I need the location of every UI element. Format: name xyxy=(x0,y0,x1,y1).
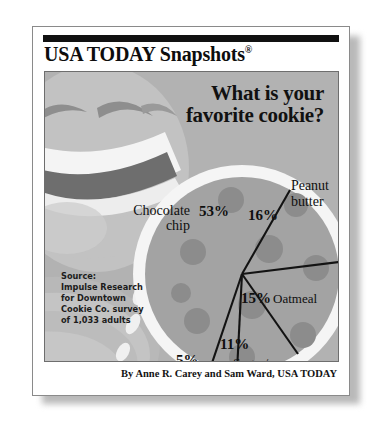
slice-label-oatmeal-name: Oatmeal xyxy=(273,291,317,306)
byline: By Anne R. Carey and Sam Ward, USA TODAY xyxy=(121,368,337,379)
registered-trademark-icon: ® xyxy=(245,44,252,55)
slice-value-oatmeal: 15% xyxy=(241,290,271,306)
illustration-panel: What is your favorite cookie? Source: Im… xyxy=(44,71,339,362)
slice-label-chocolate-chip: Chocolate chip xyxy=(108,203,190,233)
slice-value-other: 5% xyxy=(176,352,199,362)
slice-value-sugar-shortbread: 11% xyxy=(220,336,249,353)
slice-label-peanut-butter-line2: butter xyxy=(291,194,329,210)
slice-value-chocolate-chip: 53% xyxy=(199,203,229,220)
masthead-brand: USA TODAY Snapshots xyxy=(44,43,245,65)
slice-label-oatmeal: 15%Oatmeal xyxy=(241,289,317,307)
page-title-line2: favorite cookie? xyxy=(186,104,324,126)
slice-label-chocolate-chip-line1: Chocolate xyxy=(108,203,190,218)
source-line-2: Impulse Research xyxy=(61,282,165,293)
page-title: What is your favorite cookie? xyxy=(186,82,324,126)
slice-label-peanut-butter-line1: Peanut xyxy=(291,178,329,194)
source-line-4: Cookie Co. survey xyxy=(61,304,165,315)
source-note: Source: Impulse Research for Downtown Co… xyxy=(61,271,165,326)
slice-label-sugar-shortbread: Sugar/ shortbread xyxy=(233,355,290,362)
source-line-1: Source: xyxy=(61,271,165,282)
slice-label-sugar-shortbread-line1: Sugar/ xyxy=(233,355,290,362)
slice-label-peanut-butter: Peanut butter xyxy=(291,178,329,210)
source-line-5: of 1,033 adults xyxy=(61,315,165,326)
snapshot-card: USA TODAY Snapshots® xyxy=(32,26,350,396)
slice-value-peanut-butter: 16% xyxy=(248,207,278,224)
source-line-3: for Downtown xyxy=(61,293,165,304)
snapshot-infographic: USA TODAY Snapshots® xyxy=(0,0,368,424)
masthead-rule xyxy=(43,35,339,42)
slice-label-chocolate-chip-line2: chip xyxy=(108,218,190,233)
masthead-title: USA TODAY Snapshots® xyxy=(44,43,334,66)
page-title-line1: What is your xyxy=(186,82,324,104)
